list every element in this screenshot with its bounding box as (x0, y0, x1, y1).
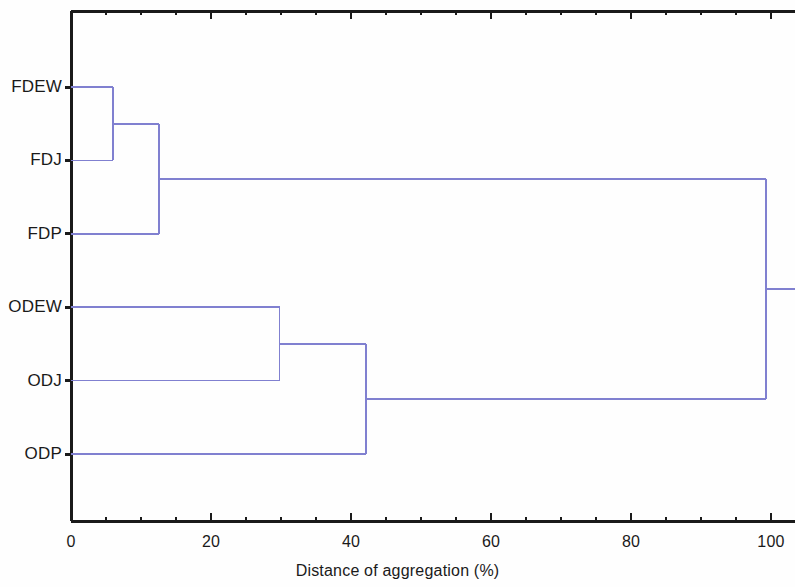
leaf-label-odp: ODP (25, 444, 62, 464)
x-tick-label-0: 0 (66, 533, 75, 551)
axis-ticks (65, 11, 771, 521)
x-tick-label-100: 100 (757, 533, 784, 551)
leaf-label-odj: ODJ (27, 371, 62, 391)
leaf-label-odew: ODEW (8, 297, 62, 317)
x-axis-title: Distance of aggregation (%) (0, 562, 795, 580)
dendrogram-tree (71, 87, 795, 454)
dendrogram-figure: FDEW FDJ FDP ODEW ODJ ODP 0 20 40 60 80 … (0, 0, 795, 587)
x-tick-label-40: 40 (342, 533, 360, 551)
x-tick-label-20: 20 (202, 533, 220, 551)
leaf-label-fdj: FDJ (30, 150, 62, 170)
dendrogram-plot (0, 0, 795, 587)
x-tick-label-60: 60 (482, 533, 500, 551)
leaf-label-fdew: FDEW (11, 77, 62, 97)
x-tick-label-80: 80 (622, 533, 640, 551)
leaf-label-fdp: FDP (27, 224, 62, 244)
plot-frame (71, 11, 795, 521)
